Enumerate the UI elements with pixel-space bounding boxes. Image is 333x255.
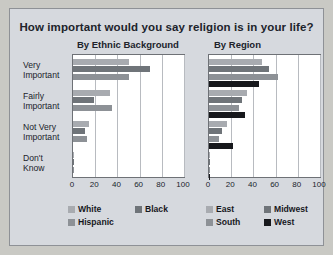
x-tick-label: 20 <box>222 180 238 189</box>
chart-poster: How important would you say religion is … <box>9 8 324 246</box>
gridline <box>320 55 321 177</box>
legend-swatch <box>68 206 75 213</box>
legend-label: South <box>216 217 240 227</box>
gridline <box>162 55 163 177</box>
bar <box>209 74 278 80</box>
bar <box>73 159 74 165</box>
x-axis-region: 020406080100 <box>208 180 319 191</box>
bar <box>209 97 242 103</box>
gridline <box>184 55 185 177</box>
bar <box>209 105 239 111</box>
legend-swatch <box>264 219 271 226</box>
legend-item[interactable]: White <box>68 204 101 214</box>
category-label-dont-know: Don't Know <box>23 154 71 173</box>
bar <box>209 59 262 65</box>
bar <box>209 159 210 165</box>
category-label-very-important: Very Important <box>23 61 71 80</box>
legend-swatch <box>206 219 213 226</box>
legend-label: Hispanic <box>78 217 114 227</box>
bar <box>209 136 219 142</box>
legend-label: White <box>78 204 101 214</box>
legend-item[interactable]: Midwest <box>264 204 308 214</box>
legend-label: East <box>216 204 234 214</box>
bar <box>209 90 247 96</box>
bar <box>73 97 94 103</box>
bar <box>209 66 269 72</box>
legend-swatch <box>206 206 213 213</box>
x-tick-label: 80 <box>153 180 169 189</box>
plot-area-region <box>208 54 321 178</box>
x-tick-label: 100 <box>175 180 191 189</box>
bar <box>73 128 85 134</box>
bar <box>209 128 222 134</box>
legend-item[interactable]: East <box>206 204 234 214</box>
x-tick-label: 80 <box>289 180 305 189</box>
legend-swatch <box>135 206 142 213</box>
category-label-fairly-important: Fairly Important <box>23 92 71 111</box>
x-tick-label: 40 <box>244 180 260 189</box>
legend-swatch <box>68 219 75 226</box>
bar <box>73 167 74 173</box>
legend-label: West <box>274 217 294 227</box>
panel-title-region: By Region <box>214 39 261 50</box>
bar <box>73 105 112 111</box>
x-tick-label: 20 <box>86 180 102 189</box>
bar <box>209 152 210 158</box>
bar <box>73 90 110 96</box>
x-tick-label: 100 <box>311 180 327 189</box>
bar <box>73 121 89 127</box>
bar <box>73 59 129 65</box>
legend-swatch <box>264 206 271 213</box>
bar <box>73 152 74 158</box>
bar <box>73 74 129 80</box>
legend-label: Black <box>145 204 168 214</box>
x-axis-ethnic: 020406080100 <box>72 180 183 191</box>
panel-title-ethnic: By Ethnic Background <box>77 39 179 50</box>
x-tick-label: 60 <box>131 180 147 189</box>
category-label-not-very-important: Not Very Important <box>23 123 71 142</box>
bar <box>209 143 233 149</box>
x-tick-label: 0 <box>64 180 80 189</box>
bar <box>209 81 259 87</box>
x-tick-label: 0 <box>200 180 216 189</box>
bar <box>209 167 210 173</box>
page-title: How important would you say religion is … <box>10 21 323 33</box>
plot-area-ethnic <box>72 54 185 178</box>
legend-label: Midwest <box>274 204 308 214</box>
bar <box>209 112 245 118</box>
legend-item[interactable]: West <box>264 217 294 227</box>
gridline <box>298 55 299 177</box>
bar <box>73 66 150 72</box>
bar <box>73 136 87 142</box>
legend-item[interactable]: South <box>206 217 240 227</box>
legend-item[interactable]: Hispanic <box>68 217 114 227</box>
gridline <box>140 55 141 177</box>
legend-item[interactable]: Black <box>135 204 168 214</box>
x-tick-label: 60 <box>267 180 283 189</box>
x-tick-label: 40 <box>108 180 124 189</box>
bar <box>209 121 227 127</box>
